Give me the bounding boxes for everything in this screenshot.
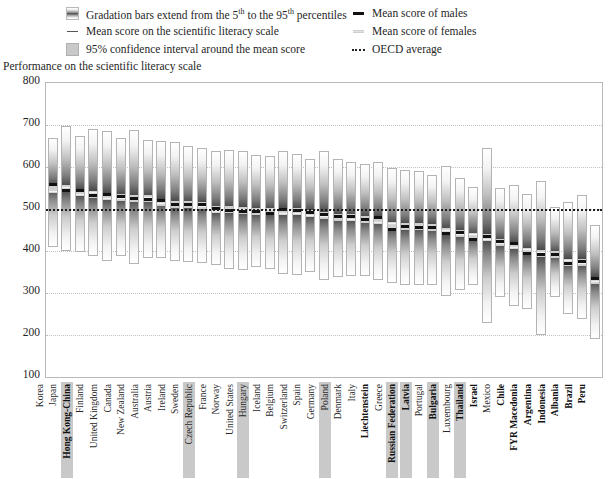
legend-label-gradation-bars: Gradation bars extend from the 5th to th… — [86, 5, 347, 22]
y-axis-tick-label: 100 — [0, 368, 40, 380]
gradation-bar — [550, 207, 560, 297]
y-axis-tick-label: 500 — [0, 200, 40, 212]
category-label: Hong Kong-China — [61, 382, 73, 478]
category-label: Bulgaria — [427, 382, 439, 478]
category-label: Norway — [210, 382, 222, 478]
gradation-bar — [319, 151, 329, 280]
female-mean-marker — [374, 221, 382, 224]
category-label: Korea — [34, 382, 46, 478]
legend-column-left: Gradation bars extend from the 5th to th… — [66, 5, 341, 59]
gradation-bar — [441, 166, 451, 296]
female-mean-marker — [293, 212, 301, 215]
chart-page: Gradation bars extend from the 5th to th… — [0, 0, 608, 479]
category-label: Liechtenstein — [359, 382, 371, 478]
gradation-bar — [333, 159, 343, 277]
male-mean-marker — [374, 216, 382, 219]
gradation-bar — [495, 188, 505, 298]
female-mean-marker — [157, 202, 165, 205]
category-label: Czech Republic — [183, 382, 195, 478]
male-mean-swatch-icon — [352, 7, 365, 20]
category-label: Greece — [373, 382, 385, 478]
female-mean-marker — [483, 238, 491, 241]
category-label: United States — [224, 382, 236, 478]
gradation-bar — [116, 138, 126, 256]
male-mean-marker — [103, 193, 111, 196]
male-mean-marker — [551, 253, 559, 256]
gradation-bar — [387, 168, 397, 283]
male-mean-marker — [117, 195, 125, 198]
category-label: Brazil — [563, 382, 575, 478]
female-mean-marker — [510, 246, 518, 249]
x-axis-category-labels: KoreaJapanHong Kong-ChinaFinlandUnited K… — [45, 382, 601, 478]
male-mean-marker — [184, 203, 192, 206]
legend-label-females: Mean score of females — [372, 25, 476, 38]
male-mean-marker — [144, 198, 152, 201]
y-axis-tick-label: 200 — [0, 326, 40, 338]
gradation-bar — [522, 194, 532, 309]
category-label: Portugal — [413, 382, 425, 478]
category-label: Switzerland — [278, 382, 290, 478]
male-mean-marker — [62, 189, 70, 192]
female-mean-marker — [388, 222, 396, 225]
gradation-bar — [346, 162, 356, 276]
category-label: Denmark — [332, 382, 344, 478]
male-mean-marker — [442, 232, 450, 235]
category-label: Austria — [142, 382, 154, 478]
category-label: Canada — [102, 382, 114, 478]
legend-label-mean-score: Mean score on the scientific literacy sc… — [86, 25, 279, 38]
male-mean-marker — [388, 228, 396, 231]
female-mean-swatch-icon — [352, 25, 365, 38]
category-label: Germany — [305, 382, 317, 478]
female-mean-marker — [279, 212, 287, 215]
gradation-bar — [400, 170, 410, 284]
male-mean-marker — [347, 215, 355, 218]
category-label: Peru — [576, 382, 588, 478]
male-mean-marker — [469, 238, 477, 241]
male-mean-marker — [361, 218, 369, 221]
category-label: Sweden — [169, 382, 181, 478]
gradation-bar — [360, 164, 370, 277]
gradation-bar — [265, 156, 275, 269]
gradation-bar — [102, 131, 112, 261]
category-label: Italy — [346, 382, 358, 478]
gradation-bar — [197, 148, 207, 263]
y-axis-tick-label: 800 — [0, 74, 40, 86]
male-mean-marker — [130, 197, 138, 200]
mean-line-swatch-icon — [66, 25, 79, 38]
male-mean-marker — [401, 225, 409, 228]
category-label: Argentina — [522, 382, 534, 478]
gradation-bar-swatch-icon — [66, 7, 79, 20]
gradation-bar — [305, 159, 315, 272]
male-mean-marker — [483, 235, 491, 238]
legend-label-confidence-interval: 95% confidence interval around the mean … — [86, 43, 305, 56]
category-label: Belgium — [264, 382, 276, 478]
gradation-bar — [455, 178, 465, 290]
gradation-bar — [373, 162, 383, 280]
confidence-interval-swatch-icon — [66, 43, 79, 56]
male-mean-marker — [456, 231, 464, 234]
gradation-bar — [590, 225, 600, 339]
legend-label-males: Mean score of males — [372, 7, 467, 20]
male-mean-marker — [510, 242, 518, 245]
category-label: Poland — [319, 382, 331, 478]
legend-label-oecd-average: OECD average — [372, 43, 442, 56]
category-label: Mexico — [481, 382, 493, 478]
oecd-average-swatch-icon — [352, 43, 365, 56]
male-mean-marker — [320, 213, 328, 216]
female-mean-marker — [103, 197, 111, 200]
gradation-bar — [536, 181, 546, 335]
male-mean-marker — [157, 199, 165, 202]
y-axis-tick-label: 400 — [0, 242, 40, 254]
category-label: Finland — [74, 382, 86, 478]
gradation-bar — [468, 187, 478, 284]
male-mean-marker — [415, 226, 423, 229]
category-label: New Zealand — [115, 382, 127, 478]
category-label: Chile — [495, 382, 507, 478]
gradation-bar — [414, 171, 424, 285]
legend-item-males: Mean score of males — [352, 5, 602, 22]
bar-gradient — [578, 196, 586, 317]
category-label: Albania — [549, 382, 561, 478]
female-mean-marker — [469, 233, 477, 236]
male-mean-marker — [89, 194, 97, 197]
gradation-bar — [183, 146, 193, 262]
